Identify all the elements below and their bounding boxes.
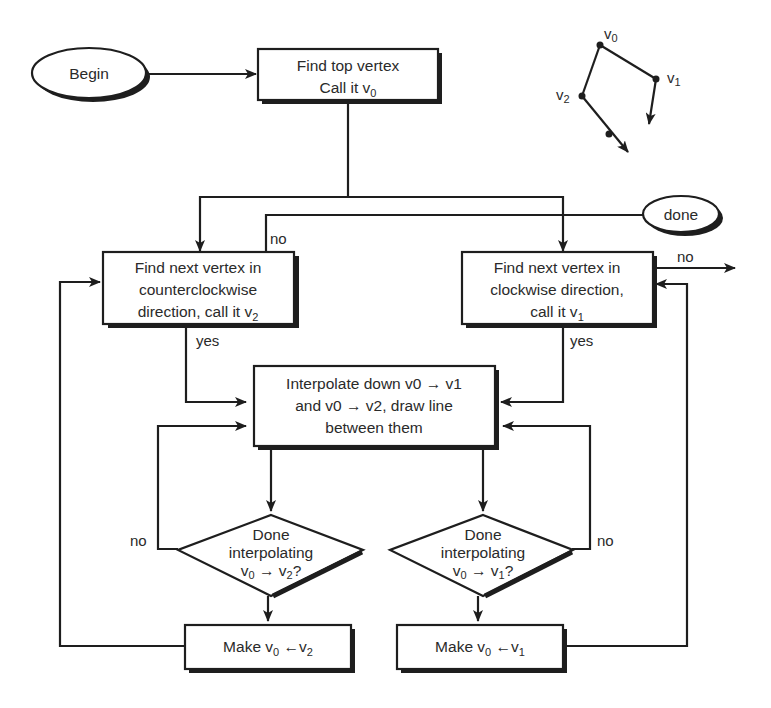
- ccw-no-label: no: [270, 230, 287, 247]
- ccw-yes-label: yes: [196, 332, 219, 349]
- polygon-scan-flowchart: Begin Find top vertex Call it v0 done no…: [0, 0, 771, 708]
- interpolate-box: Interpolate down v0 → v1 and v0 → v2, dr…: [254, 366, 499, 450]
- interpolate-line3: between them: [325, 419, 422, 436]
- find-ccw-vertex-box: Find next vertex in counterclockwise dir…: [103, 252, 299, 328]
- interpolate-line1: Interpolate down v0 → v1: [286, 375, 462, 392]
- edge-to-find-cw: [348, 197, 563, 251]
- inset-polygon-diagram: v0 v1 v2: [556, 25, 681, 152]
- left-decision-line1: Done: [252, 526, 289, 543]
- inset-v2-label: v2: [556, 86, 570, 105]
- right-decision-no-label: no: [597, 532, 614, 549]
- left-decision-no-label: no: [130, 532, 147, 549]
- left-decision-line2: interpolating: [229, 544, 313, 561]
- done-label: done: [664, 206, 698, 223]
- find-top-line1: Find top vertex: [297, 57, 400, 74]
- edge-make-left-loop-to-ccw: [60, 282, 185, 646]
- right-decision-diamond: Done interpolating v0 → v1?: [390, 515, 573, 596]
- find-ccw-line1: Find next vertex in: [135, 259, 262, 276]
- find-cw-line2: clockwise direction,: [490, 281, 624, 298]
- left-decision-diamond: Done interpolating v0 → v2?: [178, 515, 363, 596]
- inset-next-vertex-dot: [606, 131, 613, 138]
- inset-vertex-v1-dot: [653, 76, 660, 83]
- done-terminal: done: [643, 196, 723, 236]
- edge-cw-yes-to-interpolate: [501, 324, 563, 402]
- inset-vertex-v0-dot: [597, 42, 604, 49]
- find-cw-line1: Find next vertex in: [494, 259, 621, 276]
- cw-no-label: no: [677, 248, 694, 265]
- edge-ccw-no-to-done: [266, 215, 643, 252]
- inset-vertex-v2-dot: [579, 93, 586, 100]
- begin-terminal: Begin: [32, 48, 150, 102]
- right-decision-line2: interpolating: [441, 544, 525, 561]
- find-top-vertex-box: Find top vertex Call it v0: [258, 49, 442, 104]
- cw-yes-label: yes: [570, 332, 593, 349]
- inset-v1-label: v1: [667, 69, 681, 88]
- find-cw-vertex-box: Find next vertex in clockwise direction,…: [462, 252, 657, 328]
- make-v0-v2-box: Make v0 ←v2: [185, 625, 355, 673]
- interpolate-line2: and v0 → v2, draw line: [295, 397, 453, 414]
- inset-v0-label: v0: [604, 25, 618, 44]
- begin-label: Begin: [69, 65, 109, 82]
- make-v0-v1-box: Make v0 ←v1: [397, 625, 567, 673]
- right-decision-line1: Done: [464, 526, 501, 543]
- find-ccw-line2: counterclockwise: [139, 281, 257, 298]
